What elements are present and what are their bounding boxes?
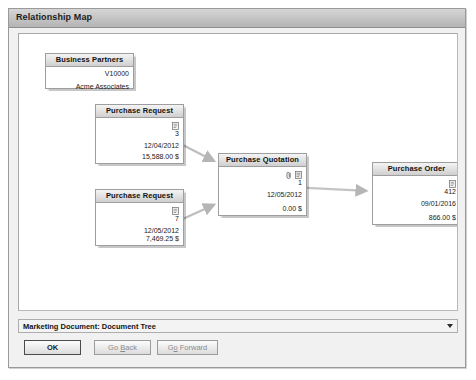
pr2-date: 12/05/2012 (100, 226, 179, 235)
node-body: 1 12/05/2012 0.00 $ (219, 167, 306, 215)
view-selector-dropdown[interactable]: Marketing Document: Document Tree (18, 319, 458, 333)
view-selector-value: Marketing Document: Document Tree (23, 322, 156, 331)
chevron-down-icon[interactable] (447, 324, 453, 328)
node-title: Purchase Request (96, 190, 183, 203)
node-icon-row (377, 178, 456, 187)
node-purchase-request-1[interactable]: Purchase Request 3 12/04/2012 15,588.00 … (95, 104, 184, 164)
go-forward-label-post: Forward (178, 343, 208, 352)
pr1-date: 12/04/2012 (100, 141, 179, 150)
window-titlebar[interactable]: Relationship Map (9, 9, 465, 28)
node-icon-row (100, 205, 179, 214)
node-title: Purchase Quotation (219, 154, 306, 167)
relationship-map-window: Relationship Map Business Partners V1000… (8, 8, 466, 368)
go-back-label-pre: Go (108, 343, 120, 352)
link-pr2-to-quotation (183, 205, 214, 219)
ok-button[interactable]: OK (24, 340, 81, 355)
link-pr1-to-quotation (183, 145, 214, 161)
pr2-amount: 7,469.25 $ (146, 235, 179, 242)
pr1-doc-number: 3 (100, 129, 179, 138)
pr2-doc-number: 7 (100, 214, 179, 223)
node-body: 7 12/05/2012 7,469.25 $ (96, 203, 183, 245)
window-title: Relationship Map (16, 12, 92, 22)
node-icon-row (223, 169, 302, 178)
node-title: Business Partners (46, 54, 133, 67)
po-doc-number: 412 (377, 187, 456, 196)
relationship-map-canvas[interactable]: Business Partners V10000 Acme Associates… (18, 33, 458, 311)
po-date: 09/01/2016 (377, 199, 456, 208)
pq-amount: 0.00 $ (283, 205, 302, 212)
node-body: 412 09/01/2016 866.00 $ (373, 176, 458, 224)
node-business-partners[interactable]: Business Partners V10000 Acme Associates (45, 53, 134, 89)
node-purchase-quotation[interactable]: Purchase Quotation (218, 153, 307, 216)
go-back-button[interactable]: Go Back (94, 340, 151, 355)
node-purchase-order[interactable]: Purchase Order 412 09/01/2016 866.00 $ (372, 162, 458, 225)
pr1-amount: 15,588.00 $ (142, 153, 179, 160)
node-title: Purchase Order (373, 163, 458, 176)
bp-name: Acme Associates (50, 82, 129, 91)
bp-code: V10000 (50, 69, 129, 78)
node-body: 3 12/04/2012 15,588.00 $ (96, 118, 183, 163)
go-forward-button[interactable]: Go Forward (157, 340, 218, 355)
po-amount: 866.00 $ (429, 214, 456, 221)
go-back-label-post: ack (125, 343, 137, 352)
paperclip-icon[interactable] (286, 165, 292, 183)
pq-date: 12/05/2012 (223, 190, 302, 199)
node-body: V10000 Acme Associates (46, 67, 133, 88)
node-icon-row (100, 120, 179, 129)
node-purchase-request-2[interactable]: Purchase Request 7 12/05/2012 7,469.25 $ (95, 189, 184, 246)
node-title: Purchase Request (96, 105, 183, 118)
link-quotation-to-order (307, 188, 367, 191)
